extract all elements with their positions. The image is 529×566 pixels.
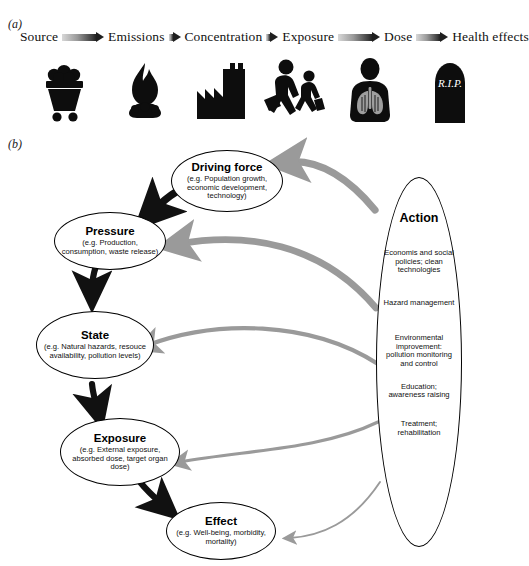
people-walking-icon [258, 57, 332, 127]
action-item-hazard-management: Hazard management [377, 299, 461, 308]
node-effect-subtitle: (e.g. Well-being, morbidity, mortality) [173, 529, 269, 546]
edge-action-to-pressure [178, 240, 376, 308]
edge-pressure-to-state [92, 266, 96, 290]
edge-driving-force-to-pressure [153, 192, 176, 211]
edge-action-to-driving-force [288, 162, 375, 210]
node-pressure-subtitle: (e.g. Production, consumption, waste rel… [61, 239, 159, 256]
node-driving-force[interactable]: Driving force (e.g. Population growth, e… [171, 150, 283, 212]
node-exposure[interactable]: Exposure (e.g. External exposure, absorb… [60, 418, 180, 486]
node-effect[interactable]: Effect (e.g. Well-being, morbidity, mort… [166, 502, 276, 560]
chain-label-dose: Dose [384, 29, 412, 45]
action-item-environmental-improvement: Environmental improvement: pollution mon… [377, 334, 461, 369]
edge-state-to-exposure [92, 384, 97, 408]
gradient-arrow-icon [338, 32, 380, 43]
panel-a-source-to-health-chain: (a) Source Emissions Concentration Expos… [0, 0, 465, 135]
gradient-arrow-icon [416, 32, 448, 43]
chain-label-concentration: Concentration [185, 29, 263, 45]
gradient-arrow-icon [62, 32, 104, 43]
gradient-arrow-icon [266, 32, 278, 43]
gradient-arrow-icon [169, 32, 181, 43]
action-item-policies: Economis and social policies; clean tech… [377, 249, 461, 275]
node-state-title: State [81, 329, 109, 342]
panel-b-label: (b) [8, 137, 22, 152]
tombstone-label: R.I.P. [437, 77, 462, 89]
node-pressure[interactable]: Pressure (e.g. Production, consumption, … [54, 212, 166, 270]
coal-cart-icon [28, 57, 102, 127]
chain-label-exposure: Exposure [282, 29, 334, 45]
action-arrows [148, 162, 380, 538]
edge-action-to-state [148, 328, 378, 364]
exposure-chain: Source Emissions Concentration Exposure … [20, 28, 460, 46]
edge-action-to-exposure [180, 422, 378, 462]
action-item-treatment: Treatment; rehabilitation [377, 420, 461, 437]
node-action-title: Action [400, 211, 439, 225]
chain-label-source: Source [20, 29, 58, 45]
torso-lungs-icon [333, 57, 407, 127]
node-driving-force-subtitle: (e.g. Population growth, economic develo… [178, 175, 276, 201]
node-action[interactable]: Action Economis and social policies; cle… [376, 177, 462, 547]
node-state[interactable]: State (e.g. Natural hazards, resouce ava… [36, 311, 154, 379]
edge-action-to-effect [290, 482, 380, 538]
node-pressure-title: Pressure [85, 225, 134, 238]
tombstone-rip-icon: R.I.P. [413, 57, 487, 127]
chain-icon-row: R.I.P. [20, 57, 460, 127]
edge-exposure-to-effect [140, 482, 163, 505]
chain-label-emissions: Emissions [108, 29, 164, 45]
node-effect-title: Effect [205, 515, 237, 528]
node-driving-force-title: Driving force [192, 161, 263, 174]
flame-icon [108, 57, 182, 127]
factory-icon [183, 57, 257, 127]
panel-b-dpsee-action-framework: Driving force (e.g. Population growth, e… [0, 132, 465, 566]
action-item-education: Education; awareness raising [377, 383, 461, 400]
node-exposure-subtitle: (e.g. External exposure, absorbed dose, … [67, 446, 173, 472]
node-state-subtitle: (e.g. Natural hazards, resouce availabil… [43, 343, 147, 360]
node-exposure-title: Exposure [94, 432, 146, 445]
chain-label-health-effects: Health effects [452, 29, 529, 45]
